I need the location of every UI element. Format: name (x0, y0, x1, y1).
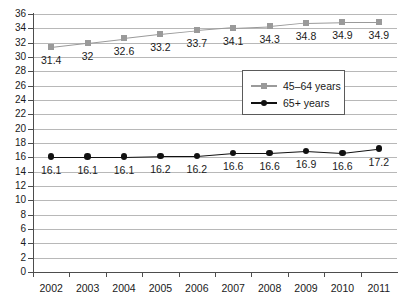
y-axis-tick-label: 12 (2, 181, 26, 191)
legend-circle-marker-icon (251, 98, 277, 108)
x-axis-tick-label: 2009 (286, 282, 326, 294)
gridline (33, 200, 397, 201)
y-axis-labels: 024681012141618202224262830323436 (0, 0, 26, 304)
y-axis-tick-label: 10 (2, 195, 26, 205)
x-axis-tick (324, 272, 325, 277)
series-line-segment (342, 149, 379, 154)
y-axis-tick-label: 6 (2, 224, 26, 234)
y-axis-tick-label: 4 (2, 238, 26, 248)
y-axis-tick-label: 18 (2, 138, 26, 148)
x-axis-tick-label: 2002 (31, 282, 71, 294)
plot-area: 31.43232.633.233.734.134.334.834.934.916… (33, 14, 397, 272)
x-axis-tick-label: 2004 (104, 282, 144, 294)
x-axis-tick-label: 2008 (250, 282, 290, 294)
data-point-marker (194, 153, 201, 160)
y-axis-tick-label: 16 (2, 152, 26, 162)
legend-label-45-64: 45–64 years (283, 81, 341, 92)
data-point-marker (376, 19, 382, 25)
x-axis-tick-label: 2003 (68, 282, 108, 294)
y-axis-tick-label: 2 (2, 253, 26, 263)
y-axis-tick-label: 0 (2, 267, 26, 277)
gridline (33, 243, 397, 244)
data-point-marker (194, 27, 200, 33)
data-point-marker (48, 153, 55, 160)
x-axis-tick-label: 2006 (177, 282, 217, 294)
y-axis-tick-label: 30 (2, 52, 26, 62)
data-point-marker (121, 35, 127, 41)
series-line-segment (51, 157, 87, 158)
x-axis-tick (142, 272, 143, 277)
gridline (33, 14, 397, 15)
data-point-marker (230, 150, 237, 157)
data-point-marker (303, 148, 310, 155)
legend-item-45-64: 45–64 years (251, 79, 341, 93)
series-line-segment (306, 22, 342, 24)
x-axis-tick-label: 2005 (140, 282, 180, 294)
series-line-segment (160, 30, 196, 35)
gridline (33, 129, 397, 130)
series-line-segment (124, 34, 161, 39)
x-axis-tick (179, 272, 180, 277)
y-axis-line (33, 13, 34, 273)
data-point-marker (303, 20, 309, 26)
x-axis-tick (361, 272, 362, 277)
legend-square-marker-icon (251, 81, 277, 91)
data-point-marker (48, 44, 54, 50)
data-point-label: 17.2 (357, 157, 401, 168)
data-point-marker (376, 145, 383, 152)
data-point-marker (84, 153, 91, 160)
series-line-segment (160, 156, 196, 157)
data-point-marker (266, 150, 273, 157)
series-line-segment (124, 156, 160, 158)
series-line-segment (306, 151, 342, 154)
gridline (33, 143, 397, 144)
y-axis-tick-label: 20 (2, 124, 26, 134)
x-axis-tick-label: 2007 (213, 282, 253, 294)
y-axis-tick-label: 14 (2, 167, 26, 177)
data-point-marker (85, 40, 91, 46)
y-axis-tick-label: 22 (2, 109, 26, 119)
legend-item-65-plus: 65+ years (251, 96, 329, 110)
data-point-marker (230, 25, 236, 31)
gridline (33, 215, 397, 216)
data-point-label: 34.9 (357, 30, 401, 41)
x-axis-tick (215, 272, 216, 277)
data-point-marker (157, 31, 163, 37)
series-line-segment (270, 23, 306, 28)
line-chart: 024681012141618202224262830323436 31.432… (0, 0, 413, 304)
gridline (33, 186, 397, 187)
gridline (33, 229, 397, 230)
series-line-segment (233, 153, 269, 154)
x-axis-tick-label: 2011 (359, 282, 399, 294)
y-axis-tick-label: 28 (2, 66, 26, 76)
y-axis-tick-label: 26 (2, 81, 26, 91)
series-line-segment (270, 151, 306, 154)
legend-label-65-plus: 65+ years (283, 98, 329, 109)
series-line-segment (342, 22, 378, 23)
y-axis-tick-label: 34 (2, 23, 26, 33)
x-axis-tick (33, 272, 34, 277)
y-axis-tick-label: 24 (2, 95, 26, 105)
x-axis-tick (69, 272, 70, 277)
y-axis-tick-label: 36 (2, 9, 26, 19)
y-axis-tick-label: 32 (2, 38, 26, 48)
series-line-segment (88, 157, 124, 158)
data-point-marker (121, 153, 128, 160)
x-axis-tick (251, 272, 252, 277)
y-axis-tick-label: 8 (2, 210, 26, 220)
x-axis-tick (106, 272, 107, 277)
gridline (33, 258, 397, 259)
data-point-marker (339, 150, 346, 157)
series-line-segment (197, 153, 233, 157)
x-axis-tick-label: 2010 (322, 282, 362, 294)
data-point-marker (339, 19, 345, 25)
x-axis-tick (288, 272, 289, 277)
data-point-marker (267, 23, 273, 29)
legend: 45–64 years 65+ years (242, 70, 345, 115)
data-point-marker (157, 153, 164, 160)
